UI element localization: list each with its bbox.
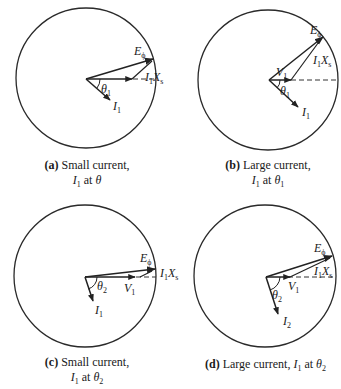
e-phi-label: Eϕ xyxy=(309,23,322,39)
theta-arc xyxy=(88,277,97,289)
theta-label: θ2 xyxy=(272,288,282,304)
theta-arc xyxy=(97,79,100,88)
i1-label: I1 xyxy=(112,99,121,115)
v1-label: V1 xyxy=(288,279,299,295)
panel-c-diagram: Eϕ I1Xs V1 θ2 I1 xyxy=(14,205,178,347)
e-phi-label: Eϕ xyxy=(313,241,326,257)
theta-label: θ2 xyxy=(97,279,107,295)
i1xs-phasor xyxy=(140,271,152,277)
i1xs-label: I1Xs xyxy=(313,264,332,280)
phasor-diagram-figure: Eϕ I1Xs θ1 I1 Eϕ I1Xs V1 θ1 I1 Eϕ I1Xs V… xyxy=(0,0,341,389)
i1-label: I1 xyxy=(94,303,103,319)
e-phi-label: Eϕ xyxy=(133,44,146,60)
caption-c: (c) Small current, I1 at θ2 xyxy=(22,355,152,389)
i1-label: I1 xyxy=(301,105,310,121)
i1xs-label: I1Xs xyxy=(312,53,331,69)
caption-b: (b) Large current, I1 at θ1 xyxy=(203,158,333,192)
e-phi-label: Eϕ xyxy=(139,251,152,267)
panel-d-diagram: Eϕ I1Xs V1 θ2 I2 xyxy=(194,205,336,347)
e-phi-phasor xyxy=(85,269,155,277)
panel-a-diagram: Eϕ I1Xs θ1 I1 xyxy=(16,8,163,148)
caption-d: (d) Large current, I1 at θ2 xyxy=(188,357,341,376)
panel-b-diagram: Eϕ I1Xs V1 θ1 I1 xyxy=(198,10,338,150)
locus-circle xyxy=(14,205,156,347)
i1xs-label: I1Xs xyxy=(144,70,163,86)
theta-label: θ1 xyxy=(280,84,290,100)
locus-circle xyxy=(16,8,156,148)
i2-label: I2 xyxy=(282,314,291,330)
caption-a: (a) Small current, I1 at θ xyxy=(22,158,152,192)
theta-label: θ1 xyxy=(101,82,111,98)
i1xs-label: I1Xs xyxy=(159,266,178,282)
v1-label: V1 xyxy=(124,281,135,297)
